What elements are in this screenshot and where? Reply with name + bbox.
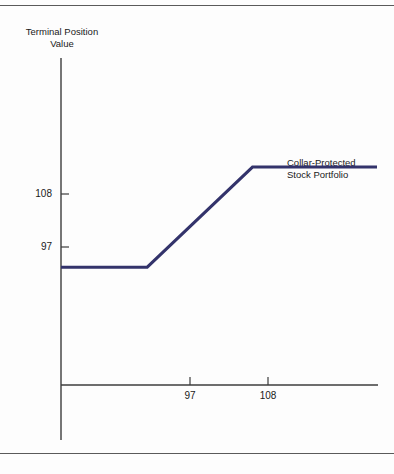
chart-svg [0,0,394,474]
series-line-collar-protected-stock-portfolio [61,167,377,267]
chart-page: Terminal Position Value Collar-Protected… [0,0,394,474]
